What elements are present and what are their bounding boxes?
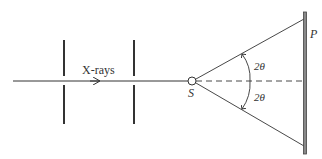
angle-arc-lower: [242, 81, 250, 109]
angle-arc-upper: [242, 54, 250, 81]
upper-angle-label: 2θ: [254, 60, 266, 72]
plate-label: P: [309, 27, 318, 41]
diffracted-ray-upper: [196, 19, 304, 79]
xray-diffraction-diagram: X-rays S 2θ 2θ P: [0, 0, 322, 159]
sample-source: [188, 77, 196, 85]
beam-label: X-rays: [82, 63, 115, 77]
photographic-plate: [304, 12, 307, 154]
lower-angle-label: 2θ: [254, 91, 266, 103]
source-label: S: [188, 86, 194, 100]
diffracted-ray-lower: [196, 83, 304, 146]
